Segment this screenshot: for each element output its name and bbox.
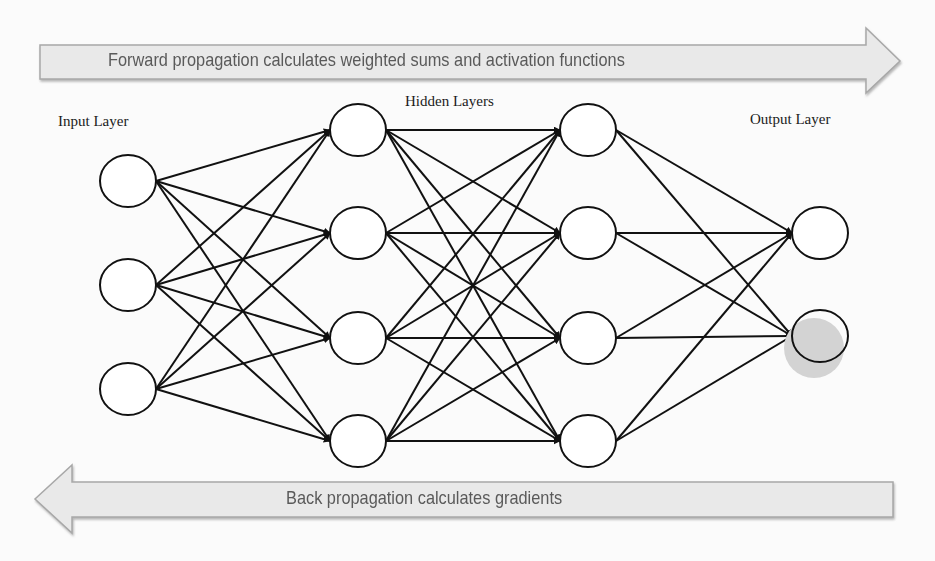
- output-neuron-1: [792, 207, 848, 259]
- input-layer-label: Input Layer: [58, 113, 128, 130]
- weight-connections: [156, 130, 792, 441]
- connection-edge: [616, 336, 792, 441]
- input-neuron-1: [100, 155, 156, 207]
- hidden2-neuron-4: [560, 415, 616, 467]
- forward-propagation-label: Forward propagation calculates weighted …: [108, 49, 625, 71]
- input-neuron-2: [100, 259, 156, 311]
- output-layer-label: Output Layer: [750, 111, 830, 128]
- connection-edge: [616, 130, 792, 233]
- hidden2-neuron-3: [560, 312, 616, 364]
- hidden2-neuron-2: [560, 207, 616, 259]
- hidden1-neuron-3: [330, 312, 386, 364]
- neural-network-diagram: Forward propagation calculates weighted …: [0, 0, 935, 561]
- connection-edge: [156, 130, 330, 181]
- network-canvas: [0, 0, 935, 561]
- connection-edge: [156, 338, 330, 389]
- hidden-layers-label: Hidden Layers: [405, 93, 494, 110]
- connection-edge: [156, 233, 330, 389]
- hidden1-neuron-1: [330, 104, 386, 156]
- hidden2-neuron-1: [560, 104, 616, 156]
- connection-edge: [156, 389, 330, 441]
- hidden1-neuron-4: [330, 415, 386, 467]
- back-propagation-label: Back propagation calculates gradients: [286, 487, 562, 509]
- hidden1-neuron-2: [330, 207, 386, 259]
- connection-edge: [156, 130, 330, 389]
- input-neuron-3: [100, 363, 156, 415]
- connection-edge: [156, 130, 330, 285]
